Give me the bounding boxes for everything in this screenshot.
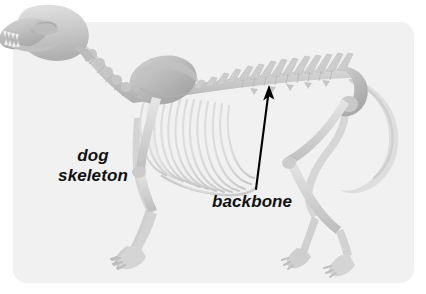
- dog-skeleton-figure: dog skeleton backbone: [0, 0, 426, 294]
- label-dog-skeleton: dog skeleton: [44, 146, 142, 185]
- label-dog-skeleton-line2: skeleton: [44, 166, 142, 186]
- label-dog-skeleton-line1: dog: [44, 146, 142, 166]
- label-backbone: backbone: [212, 192, 292, 212]
- backbone-pointer-arrow: [256, 85, 274, 189]
